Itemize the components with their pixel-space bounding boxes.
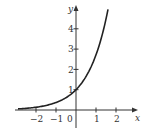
x-axis-label: x (135, 114, 140, 123)
y-tick-label-1: 1 (68, 86, 74, 95)
y-tick-label-2: 2 (68, 66, 74, 75)
y-axis-arrow-icon (74, 5, 79, 11)
x-tick-label-1: 1 (94, 115, 100, 124)
exp-curve (18, 9, 108, 108)
y-tick-label-4: 4 (68, 25, 74, 34)
x-tick-label-2: 2 (114, 115, 120, 124)
origin-label: 0 (67, 115, 73, 124)
x-axis-arrow-icon (132, 108, 138, 113)
x-tick-label-neg1: −1 (50, 115, 63, 124)
x-tick-label-neg2: −2 (30, 115, 43, 124)
exponential-plot (0, 0, 149, 132)
y-tick-label-3: 3 (68, 45, 74, 54)
y-axis-label: y (68, 5, 73, 14)
